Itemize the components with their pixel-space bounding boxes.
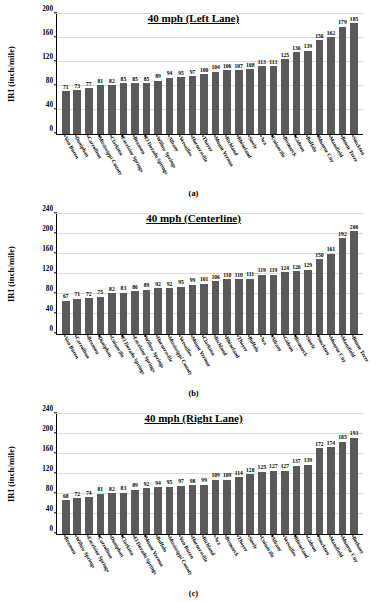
bar[interactable]: 150	[316, 259, 324, 334]
bar[interactable]: 82	[108, 493, 116, 534]
bar[interactable]: 71	[62, 91, 70, 134]
bar[interactable]: 95	[177, 287, 185, 335]
bar[interactable]: 139	[304, 51, 312, 134]
bar-value-label: 111	[246, 272, 254, 278]
bar[interactable]: 113	[258, 66, 266, 134]
bar[interactable]: 113	[270, 66, 278, 134]
bar[interactable]: 206	[350, 231, 358, 334]
bar-value-label: 89	[144, 283, 150, 289]
bar[interactable]: 81	[97, 494, 105, 535]
bar-value-label: 179	[338, 20, 346, 26]
bar[interactable]: 127	[270, 471, 278, 535]
bar[interactable]: 119	[270, 275, 278, 335]
bar-group: 104	[210, 14, 222, 134]
bar[interactable]: 85	[143, 83, 151, 134]
bar-group: 185	[348, 14, 360, 134]
bar[interactable]: 72	[85, 298, 93, 334]
bar[interactable]: 108	[246, 69, 254, 134]
x-label-group: Buffalo	[301, 136, 313, 188]
bar[interactable]: 100	[200, 74, 208, 134]
bar[interactable]: 192	[339, 238, 347, 334]
bar[interactable]: 97	[189, 76, 197, 134]
bar[interactable]: 107	[235, 70, 243, 134]
bar[interactable]: 120	[246, 474, 254, 534]
bar[interactable]: 124	[281, 272, 289, 334]
bar[interactable]: 136	[293, 52, 301, 134]
bar[interactable]: 174	[327, 447, 335, 534]
x-label-group: Mansfield	[324, 136, 336, 188]
y-tick-label: 80	[46, 79, 57, 86]
bar[interactable]: 92	[154, 288, 162, 334]
bar-group: 85	[129, 14, 141, 134]
plot-area-a: 04080120160200 7173778182858585899495971…	[56, 14, 363, 135]
bar[interactable]: 85	[120, 83, 128, 134]
bar[interactable]: 89	[143, 290, 151, 335]
bar[interactable]: 125	[258, 472, 266, 535]
bar[interactable]: 92	[166, 288, 174, 334]
bar[interactable]: 81	[97, 85, 105, 134]
chart-panel-b: IRI (inch/mile) 40 mph (Centerline) 0408…	[0, 200, 387, 400]
bar[interactable]: 67	[62, 301, 70, 335]
bar[interactable]: 114	[235, 477, 243, 534]
bar[interactable]: 83	[120, 293, 128, 335]
bar-value-label: 129	[304, 263, 312, 269]
bar[interactable]: 82	[108, 293, 116, 334]
bar[interactable]: 73	[73, 90, 81, 134]
x-axis-labels-b: Van BurenCarrolltonBransonDoniphanUnionv…	[56, 336, 362, 388]
bar[interactable]: 126	[293, 271, 301, 334]
bar[interactable]: 161	[327, 254, 335, 335]
bar[interactable]: 86	[131, 291, 139, 334]
bar[interactable]: 106	[212, 281, 220, 334]
bar[interactable]: 71	[73, 299, 81, 335]
bar[interactable]: 72	[73, 498, 81, 534]
bar[interactable]: 172	[316, 448, 324, 534]
bar[interactable]: 68	[62, 500, 70, 534]
bar[interactable]: 185	[350, 23, 358, 134]
bar[interactable]: 111	[246, 279, 254, 335]
bar[interactable]: 109	[212, 480, 220, 535]
bar[interactable]: 125	[281, 59, 289, 134]
x-label-group: Carrollton	[82, 136, 94, 188]
bar[interactable]: 89	[154, 81, 162, 134]
bar[interactable]: 94	[166, 78, 174, 134]
x-label-group: Bonne Terre	[347, 336, 359, 388]
bar[interactable]: 92	[143, 488, 151, 534]
bar[interactable]: 99	[200, 485, 208, 535]
bar[interactable]: 193	[350, 438, 358, 535]
bar[interactable]: 85	[131, 83, 139, 134]
bar[interactable]: 95	[166, 487, 174, 535]
bar[interactable]: 109	[223, 480, 231, 535]
bar[interactable]: 99	[189, 285, 197, 335]
x-label-group: Mansfield	[336, 336, 348, 388]
bar[interactable]: 104	[212, 72, 220, 134]
bar[interactable]: 127	[281, 471, 289, 535]
bar[interactable]: 162	[327, 37, 335, 134]
bar-group: 110	[233, 214, 245, 334]
bar[interactable]: 139	[304, 465, 312, 535]
bar[interactable]: 97	[177, 486, 185, 535]
bar[interactable]: 137	[293, 466, 301, 535]
bar[interactable]: 95	[177, 77, 185, 134]
bar[interactable]: 77	[85, 88, 93, 134]
bar[interactable]: 156	[316, 40, 324, 134]
bar[interactable]: 179	[339, 27, 347, 134]
bar-group: 129	[302, 214, 314, 334]
x-label-group: Gideon	[278, 336, 290, 388]
bar[interactable]: 110	[235, 279, 243, 334]
bar[interactable]: 106	[223, 70, 231, 134]
bar[interactable]: 101	[200, 284, 208, 335]
bar[interactable]: 82	[108, 85, 116, 134]
bar[interactable]: 89	[131, 490, 139, 535]
bar-value-label: 192	[338, 232, 346, 238]
bar[interactable]: 129	[304, 270, 312, 335]
bar[interactable]: 94	[154, 487, 162, 534]
bar[interactable]: 185	[339, 442, 347, 535]
bar-group: 71	[72, 214, 84, 334]
bar[interactable]: 110	[223, 279, 231, 334]
x-label-group: Ava	[255, 136, 267, 188]
bar[interactable]: 98	[189, 485, 197, 534]
bar[interactable]: 74	[85, 497, 93, 534]
bar[interactable]: 119	[258, 275, 266, 335]
bar[interactable]: 75	[97, 297, 105, 335]
bar[interactable]: 83	[120, 493, 128, 535]
